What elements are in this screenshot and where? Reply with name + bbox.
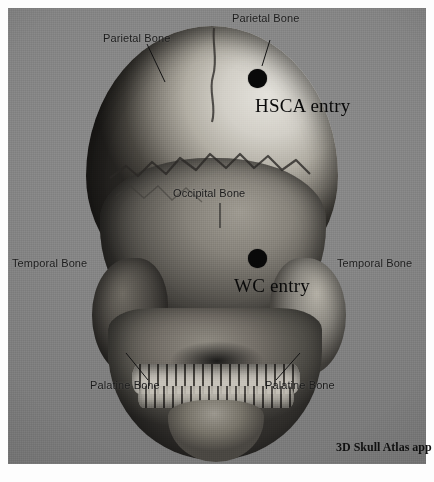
skull-illustration [8,8,426,464]
label-occipital-bone: Occipital Bone [173,187,245,199]
source-credit: 3D Skull Atlas app [336,440,432,455]
lambdoid-suture-icon [86,26,338,294]
skull-figure: Parietal Bone Parietal Bone Occipital Bo… [0,0,434,482]
label-parietal-bone-top: Parietal Bone [232,12,299,24]
label-parietal-bone-left: Parietal Bone [103,32,170,44]
hsca-entry-label: HSCA entry [255,95,350,117]
wc-entry-label: WC entry [234,275,310,297]
label-palatine-bone-right: Palatine Bone [265,379,335,391]
label-palatine-bone-left: Palatine Bone [90,379,160,391]
label-temporal-bone-left: Temporal Bone [12,257,87,269]
hsca-entry-marker [248,69,267,88]
label-temporal-bone-right: Temporal Bone [337,257,412,269]
skull-photograph [8,8,426,464]
wc-entry-marker [248,249,267,268]
